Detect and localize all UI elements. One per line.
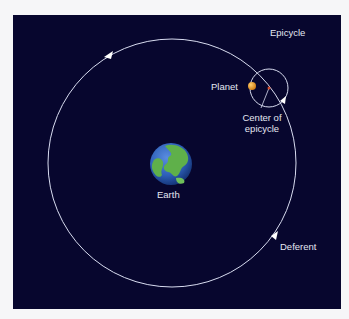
center-of-epicycle-line1: Center of <box>236 112 288 123</box>
deferent-arrow-top-icon <box>104 51 113 59</box>
center-of-epicycle-label: Center of epicycle <box>236 112 288 134</box>
epicycle-center-leader-line <box>261 88 269 108</box>
earth-icon <box>150 143 192 185</box>
epicycle-label: Epicycle <box>270 27 305 38</box>
epicycle-diagram <box>0 0 349 319</box>
planet-label: Planet <box>211 81 238 92</box>
planet-icon <box>248 82 256 90</box>
deferent-label: Deferent <box>280 241 316 252</box>
earth-label: Earth <box>157 189 180 200</box>
center-of-epicycle-line2: epicycle <box>236 123 288 134</box>
epicycle-center-dot <box>268 87 271 90</box>
